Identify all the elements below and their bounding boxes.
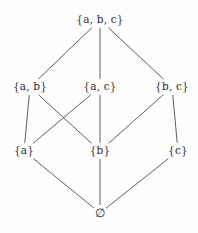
hasse-node-bc: {b, c} bbox=[154, 81, 190, 92]
hasse-diagram: {a, b, c}{a, b}{a, c}{b, c}{a}{b}{c}∅ bbox=[0, 0, 198, 233]
hasse-edge-abc-ab bbox=[38, 28, 91, 79]
hasse-node-ac: {a, c} bbox=[82, 81, 117, 92]
hasse-edge-ab-a bbox=[25, 95, 29, 142]
hasse-node-abc: {a, b, c} bbox=[75, 14, 124, 25]
hasse-edge-bc-b bbox=[109, 95, 163, 143]
hasse-node-empty: ∅ bbox=[94, 207, 106, 219]
hasse-edge-bc-c bbox=[173, 95, 177, 142]
hasse-edge-ab-b bbox=[39, 95, 91, 143]
hasse-node-b: {b} bbox=[89, 145, 112, 156]
hasse-node-ab: {a, b} bbox=[12, 81, 48, 92]
hasse-edge-a-empty bbox=[34, 159, 94, 208]
hasse-node-c: {c} bbox=[167, 145, 189, 156]
hasse-edge-c-empty bbox=[106, 159, 168, 208]
hasse-edge-ac-a bbox=[33, 95, 90, 143]
hasse-edge-abc-bc bbox=[109, 28, 164, 79]
hasse-edge-layer bbox=[0, 0, 198, 233]
hasse-node-a: {a} bbox=[13, 145, 35, 156]
